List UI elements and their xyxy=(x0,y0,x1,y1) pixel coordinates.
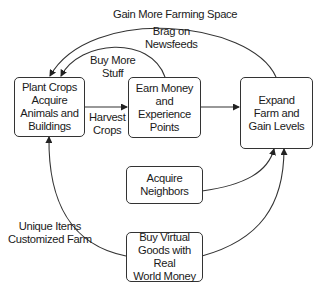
edge-label-harvest: Harvest Crops xyxy=(89,111,125,136)
plant-line-3: Animals and xyxy=(20,107,78,120)
plant-line-2: Acquire xyxy=(20,94,78,107)
node-expand-farm: Expand Farm and Gain Levels xyxy=(240,77,313,149)
earn-line-2: and xyxy=(136,95,193,108)
buy-line-2: Goods with Real xyxy=(127,244,202,270)
buy-more-line-1: Buy More xyxy=(90,54,135,67)
plant-line-4: Buildings xyxy=(20,120,78,133)
earn-line-1: Earn Money xyxy=(136,82,193,95)
expand-line-3: Gain Levels xyxy=(249,120,305,133)
neighbors-line-2: Neighbors xyxy=(140,185,188,198)
unique-line-1: Unique Items xyxy=(8,220,92,233)
harvest-line-2: Crops xyxy=(89,124,125,137)
edge-label-buy-more: Buy More Stuff xyxy=(90,54,135,79)
expand-line-2: Farm and xyxy=(249,107,305,120)
node-acquire-neighbors: Acquire Neighbors xyxy=(126,166,203,204)
unique-line-2: Customized Farm xyxy=(8,233,92,246)
expand-line-1: Expand xyxy=(249,94,305,107)
edge-label-brag: Brag on Newsfeeds xyxy=(145,25,198,50)
plant-line-1: Plant Crops xyxy=(20,81,78,94)
node-earn-money: Earn Money and Experience Points xyxy=(128,77,201,138)
edge-label-unique: Unique Items Customized Farm xyxy=(8,220,92,245)
brag-line-1: Brag on xyxy=(145,25,198,38)
node-buy-virtual-goods: Buy Virtual Goods with Real World Money xyxy=(126,232,203,282)
earn-line-4: Points xyxy=(136,121,193,134)
neighbors-line-1: Acquire xyxy=(140,172,188,185)
edge-neighbors-to-expand xyxy=(202,149,274,191)
edge-buy-to-expand xyxy=(202,149,284,256)
buy-line-1: Buy Virtual xyxy=(127,231,202,244)
buy-line-3: World Money xyxy=(127,270,202,283)
buy-more-line-2: Stuff xyxy=(90,67,135,80)
edge-label-gain-space: Gain More Farming Space xyxy=(113,8,237,21)
brag-line-2: Newsfeeds xyxy=(145,38,198,51)
node-plant-crops: Plant Crops Acquire Animals and Building… xyxy=(14,77,85,137)
harvest-line-1: Harvest xyxy=(89,111,125,124)
earn-line-3: Experience xyxy=(136,108,193,121)
